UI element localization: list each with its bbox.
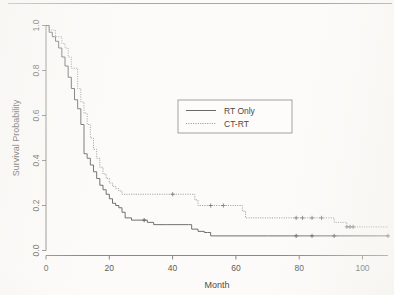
y-axis-tick-labels: 0.0 0.2 0.4 0.6 0.8 1.0 [31, 19, 41, 256]
figure-root: 0.0 0.2 0.4 0.6 0.8 1.0 Survival Probabi… [0, 0, 394, 295]
x-axis-ticks [46, 256, 363, 260]
x-tick-label: 60 [231, 263, 241, 273]
y-tick-label: 1.0 [31, 19, 41, 31]
legend: RT Only CT-RT [178, 100, 292, 133]
x-axis-title: Month [204, 280, 229, 290]
y-axis: 0.0 0.2 0.4 0.6 0.8 1.0 Survival Probabi… [11, 19, 46, 256]
x-axis-tick-labels: 0 20 40 60 80 100 [44, 263, 370, 273]
x-tick-label: 20 [105, 263, 115, 273]
y-axis-title: Survival Probability [11, 99, 21, 176]
y-tick-label: 0.8 [31, 64, 41, 76]
legend-label-ct-rt: CT-RT [224, 119, 249, 129]
x-tick-label: 40 [168, 263, 178, 273]
y-tick-label: 0.2 [31, 199, 41, 211]
y-tick-label: 0.4 [31, 154, 41, 166]
censor-marks-ct-rt [171, 192, 356, 229]
y-axis-ticks [42, 26, 46, 251]
survival-curve-chart: 0.0 0.2 0.4 0.6 0.8 1.0 Survival Probabi… [0, 0, 394, 295]
x-axis: 0 20 40 60 80 100 Month [44, 256, 388, 291]
x-tick-label: 100 [355, 263, 369, 273]
y-tick-label: 0.0 [31, 244, 41, 256]
legend-label-rt-only: RT Only [224, 106, 256, 116]
x-tick-label: 80 [294, 263, 304, 273]
x-tick-label: 0 [44, 263, 49, 273]
y-tick-label: 0.6 [31, 109, 41, 121]
